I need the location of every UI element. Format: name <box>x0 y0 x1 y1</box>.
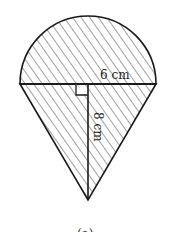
radius-label: 6 cm <box>100 68 130 82</box>
height-label: 8 cm <box>91 112 105 142</box>
cone-semicircle-figure: 6 cm 8 cm (a) <box>0 0 187 232</box>
figure-caption: (a) <box>77 227 94 232</box>
semicircle-shape <box>20 16 156 84</box>
